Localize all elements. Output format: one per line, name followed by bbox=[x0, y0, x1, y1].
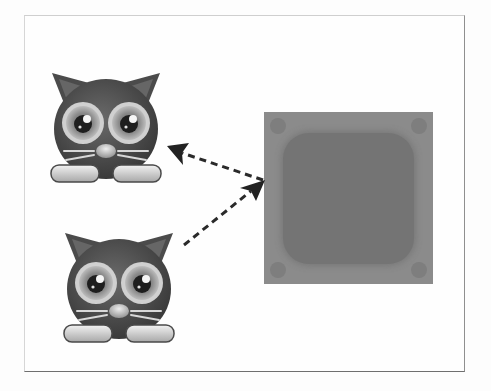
square-block-inner bbox=[283, 133, 414, 264]
cat-icon-top bbox=[49, 71, 163, 185]
diagram bbox=[0, 0, 491, 391]
corner-circle-top-left bbox=[270, 118, 286, 134]
arrow-bottom-cat-to-block bbox=[184, 180, 265, 245]
corner-circle-bottom-right bbox=[411, 262, 427, 278]
arrow-block-to-top-cat bbox=[167, 143, 263, 180]
cat-icon-bottom bbox=[62, 231, 176, 345]
square-block bbox=[264, 112, 433, 284]
corner-circle-bottom-left bbox=[270, 262, 286, 278]
corner-circle-top-right bbox=[411, 118, 427, 134]
